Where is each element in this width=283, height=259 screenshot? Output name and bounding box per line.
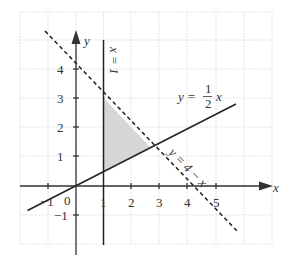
y-tick-label: 4 (57, 62, 64, 77)
y-tick-label: 3 (57, 91, 64, 106)
equation-x-equals-1: x = 1 (107, 46, 122, 75)
line-y-4-minus-x (45, 31, 238, 232)
x-tick-label: 3 (156, 195, 163, 210)
svg-text:2: 2 (205, 96, 212, 111)
inequality-graph: −1 0 1 2 3 4 5 4 3 2 1 −1 x y x = 1 y = … (0, 0, 283, 259)
x-tick-label: 4 (184, 195, 191, 210)
x-axis (20, 182, 273, 191)
origin-label: 0 (64, 193, 71, 208)
y-tick-label: 2 (57, 120, 64, 135)
y-tick-label: −1 (54, 208, 68, 223)
svg-text:x: x (215, 89, 222, 104)
x-tick-label: 5 (213, 195, 220, 210)
x-tick-label: 1 (100, 195, 107, 210)
x-axis-arrow-icon (259, 182, 273, 191)
y-tick-label: 1 (57, 149, 64, 164)
y-axis-label: y (82, 33, 90, 48)
svg-text:y =: y = (176, 89, 196, 104)
y-axis-arrow-icon (72, 30, 81, 44)
x-tick-label: 2 (128, 195, 135, 210)
x-tick-label: −1 (40, 194, 54, 209)
equation-y-half-x: y = 1 2 x (176, 81, 222, 111)
svg-text:1: 1 (205, 81, 212, 96)
x-axis-label: x (272, 180, 279, 195)
